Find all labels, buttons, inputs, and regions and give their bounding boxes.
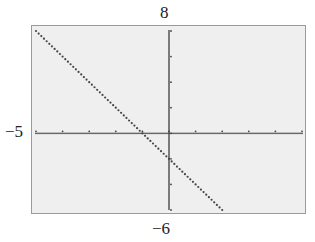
plot-area [0, 0, 315, 242]
